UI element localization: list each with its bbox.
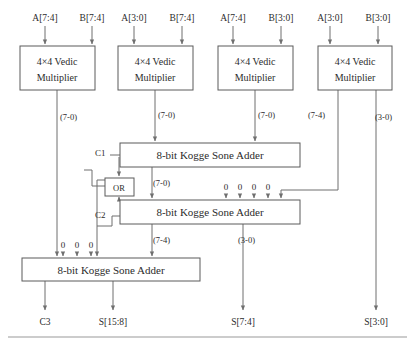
output-label-s158: S[15:8]: [99, 317, 128, 327]
zero-label-a3-1: 0: [61, 240, 66, 250]
output-labels: C3 S[15:8] S[7:4] S[3:0]: [39, 317, 387, 327]
zero-label-a3-3: 0: [89, 240, 94, 250]
bus-label-m4-74: (7-4): [308, 110, 325, 120]
input-label-b74-2: B[7:4]: [170, 13, 195, 23]
bus-label-m1-70: (7-0): [60, 112, 77, 122]
adder-3-label: 8-bit Kogge Sone Adder: [57, 264, 165, 276]
input-wires: [45, 26, 378, 44]
or-gate-label: OR: [113, 183, 125, 193]
bus-label-m3-70: (7-0): [258, 110, 275, 120]
adder-labels: 8-bit Kogge Sone Adder 8-bit Kogge Sone …: [57, 149, 264, 276]
output-label-c3: C3: [39, 317, 50, 327]
zero-label-a3-2: 0: [75, 240, 80, 250]
multiplier-1-line2: Multiplier: [37, 72, 78, 83]
zero-label-a2-4: 0: [266, 182, 271, 192]
bus-label-a2-30: (3-0): [238, 235, 255, 245]
multiplier-1-line1: 4×4 Vedic: [37, 56, 78, 67]
multiplier-box-3: [218, 46, 293, 90]
adder-1-label: 8-bit Kogge Sone Adder: [156, 149, 264, 161]
input-label-b30-2: B[3:0]: [366, 13, 391, 23]
input-label-b74-1: B[7:4]: [80, 13, 105, 23]
multiplier-4-line1: 4×4 Vedic: [335, 56, 376, 67]
input-label-a74-1: A[7:4]: [32, 13, 57, 23]
bus-label-a1-70: (7-0): [153, 178, 170, 188]
zero-label-a2-1: 0: [224, 182, 229, 192]
multiplier-boxes: [20, 46, 392, 90]
input-label-a30-2: A[3:0]: [317, 13, 342, 23]
zero-label-a2-2: 0: [238, 182, 243, 192]
multiplier-3-line2: Multiplier: [235, 72, 276, 83]
input-port-labels: A[7:4] B[7:4] A[3:0] B[7:4] A[7:4] B[3:0…: [32, 13, 390, 23]
carry-label-c2: C2: [95, 210, 106, 220]
zero-label-a2-3: 0: [252, 182, 257, 192]
multiplier-3-line1: 4×4 Vedic: [235, 56, 276, 67]
bus-label-m2-70: (7-0): [158, 110, 175, 120]
multiplier-4-line2: Multiplier: [335, 72, 376, 83]
input-label-a74-2: A[7:4]: [220, 13, 245, 23]
bus-label-m4-30: (3-0): [375, 112, 392, 122]
multiplier-box-2: [118, 46, 193, 90]
block-diagram: A[7:4] B[7:4] A[3:0] B[7:4] A[7:4] B[3:0…: [0, 0, 415, 347]
input-label-b30-1: B[3:0]: [269, 13, 294, 23]
multiplier-2-line2: Multiplier: [135, 72, 176, 83]
carry-label-c1: C1: [95, 148, 106, 158]
diagram-canvas: A[7:4] B[7:4] A[3:0] B[7:4] A[7:4] B[3:0…: [0, 0, 415, 347]
multiplier-2-line1: 4×4 Vedic: [135, 56, 176, 67]
adder-2-label: 8-bit Kogge Sone Adder: [156, 206, 264, 218]
input-label-a30-1: A[3:0]: [121, 13, 146, 23]
output-label-s30: S[3:0]: [364, 317, 388, 327]
output-label-s74: S[7:4]: [231, 317, 255, 327]
multiplier-box-1: [20, 46, 95, 90]
bottom-output-wires: [45, 281, 113, 310]
bus-label-a2-74: (7-4): [153, 235, 170, 245]
multiplier-box-4: [318, 46, 392, 90]
